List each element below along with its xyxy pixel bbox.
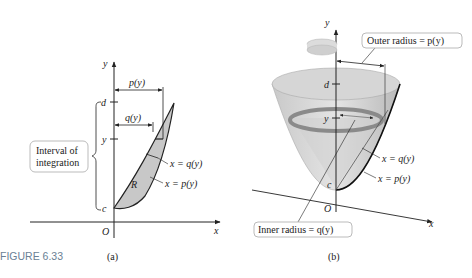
figure-label: FIGURE 6.33 [0,250,63,262]
rotation-arrow-icon [307,39,337,55]
region-r [114,103,174,209]
inner-radius-label: Inner radius = q(y) [258,224,333,236]
figure-canvas: x y O d y c R p(y) q(y) x = q(y) x = p(y… [0,0,472,278]
outer-radius-label: Outer radius = p(y) [367,35,444,47]
curve-p-b-label: x = p(y) [377,173,411,185]
x-axis-b [252,190,432,222]
region-label: R [130,179,137,190]
interval-callout-line2: integration [36,157,79,168]
x-axis-b-label: x [428,218,434,229]
curve-p-label: x = p(y) [164,178,198,190]
curve-q-label: x = q(y) [169,158,203,170]
dim-q-label: q(y) [125,112,142,124]
tick-y-label: y [101,134,107,145]
outer-radius-leader [362,48,375,63]
caption-b: (b) [328,251,340,263]
caption-a: (a) [107,251,118,263]
interval-brace [92,102,101,210]
tick-y-b-label: y [323,113,329,124]
y-axis-b-label: y [324,17,330,28]
outer-radius-arrow [337,61,384,66]
curve-q-b-label: x = q(y) [381,153,415,165]
interval-callout-line1: Interval of [36,145,79,156]
x-axis-label: x [213,225,219,236]
origin-label: O [102,226,109,237]
tick-c-b-label: c [327,179,332,190]
dim-p-label: p(y) [128,77,146,89]
panel-b: x y O d y c Outer radius = p(y) Inner ra… [252,17,462,263]
tick-c-label: c [102,203,107,214]
leader-p-b [364,172,376,178]
origin-b-label: O [324,203,331,214]
y-axis-label: y [102,58,108,69]
panel-a: x y O d y c R p(y) q(y) x = q(y) x = p(y… [30,58,220,263]
tick-d-label: d [101,97,107,108]
